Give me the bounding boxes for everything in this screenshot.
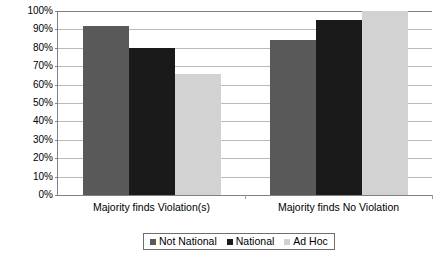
legend-item[interactable]: Ad Hoc <box>284 236 327 247</box>
legend-label: Ad Hoc <box>293 236 327 247</box>
legend-label: Not National <box>159 236 217 247</box>
y-axis-tick-mark <box>55 85 58 86</box>
y-axis-tick-mark <box>55 66 58 67</box>
y-axis-tick-mark <box>55 140 58 141</box>
y-axis-tick-label: 40% <box>33 116 53 126</box>
legend-item[interactable]: National <box>227 236 275 247</box>
chart-legend: Not NationalNationalAd Hoc <box>143 233 335 250</box>
legend-label: National <box>236 236 275 247</box>
y-axis-tick-mark <box>55 11 58 12</box>
x-axis-category-label: Majority finds No Violation <box>245 201 432 213</box>
y-axis-tick-mark <box>55 177 58 178</box>
x-axis-tick-mark <box>432 195 433 199</box>
y-axis-tick-mark <box>55 158 58 159</box>
y-axis-tick-label: 60% <box>33 80 53 90</box>
legend-swatch-icon <box>284 239 290 245</box>
legend-swatch-icon <box>227 239 233 245</box>
y-axis-tick-label: 80% <box>33 43 53 53</box>
y-axis-tick-label: 100% <box>27 6 53 16</box>
y-axis-tick-mark <box>55 48 58 49</box>
y-axis-tick-label: 50% <box>33 98 53 108</box>
legend-item[interactable]: Not National <box>150 236 217 247</box>
bar-chart: 100%90%80%70%60%50%40%30%20%10%0% Majori… <box>0 0 444 260</box>
y-axis-tick-mark <box>55 103 58 104</box>
y-axis-tick-label: 90% <box>33 24 53 34</box>
bar <box>270 40 316 195</box>
y-axis-tick-label: 20% <box>33 153 53 163</box>
legend-swatch-icon <box>150 239 156 245</box>
bar <box>175 74 221 195</box>
y-axis-tick-label: 10% <box>33 172 53 182</box>
y-axis-tick-mark <box>55 29 58 30</box>
y-axis-tick-label: 0% <box>39 190 53 200</box>
x-axis-category-label: Majority finds Violation(s) <box>58 201 245 213</box>
bar <box>362 11 408 195</box>
y-axis-tick-label: 70% <box>33 61 53 71</box>
y-axis-tick-mark <box>55 121 58 122</box>
bar <box>316 20 362 195</box>
bar <box>83 26 129 195</box>
y-axis-tick-mark <box>55 195 58 196</box>
bar <box>129 48 175 195</box>
x-axis-tick-mark <box>245 195 246 199</box>
plot-area: 100%90%80%70%60%50%40%30%20%10%0% <box>57 11 432 196</box>
y-axis-tick-label: 30% <box>33 135 53 145</box>
